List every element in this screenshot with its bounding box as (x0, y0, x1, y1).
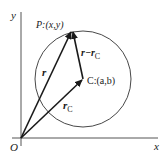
vector-r-minus-r-c-main: r−r (81, 47, 95, 58)
vector-r-c-label: rC (63, 99, 73, 114)
vector-r-minus-r-c-subscript: C (95, 52, 100, 61)
point-c-label: C:(a,b) (87, 75, 115, 87)
vector-circle-diagram: y x O P:(x,y) C:(a,b) r rC r−rC (0, 0, 168, 164)
point-p-label: P:(x,y) (35, 19, 64, 31)
vector-r-minus-r-c-label: r−rC (81, 47, 100, 61)
y-axis-label: y (10, 9, 16, 21)
vector-r-label: r (42, 66, 47, 78)
vector-r-c-subscript: C (67, 105, 72, 114)
origin-label: O (10, 141, 18, 153)
vector-r-c (21, 80, 82, 138)
x-axis-label: x (153, 140, 159, 152)
